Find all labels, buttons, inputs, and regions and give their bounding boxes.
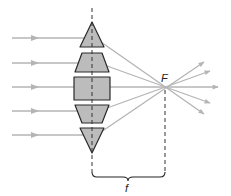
arrow-icon xyxy=(31,84,39,90)
refracted-ray-5 xyxy=(101,62,204,132)
refracted-ray-1 xyxy=(101,42,204,114)
lens-diagram: F f xyxy=(0,0,231,196)
focal-length-label: f xyxy=(125,182,129,194)
refracted-rays xyxy=(101,42,218,132)
arrow-icon xyxy=(31,60,39,66)
arrow-icon xyxy=(31,132,39,138)
arrow-icon xyxy=(31,35,39,41)
focal-point-label: F xyxy=(161,72,169,84)
focal-length-brace xyxy=(92,172,165,181)
arrow-icon xyxy=(31,108,39,114)
refracted-ray-2 xyxy=(107,66,210,103)
refracted-ray-4 xyxy=(107,71,210,108)
upper-trapezoid-prism xyxy=(75,53,109,72)
